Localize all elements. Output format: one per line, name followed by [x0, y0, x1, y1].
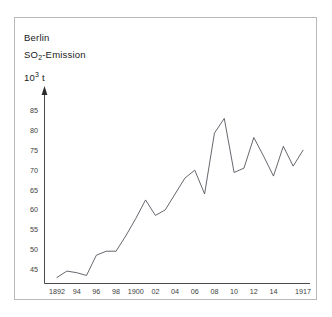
y-tick-label: 75 — [30, 146, 38, 155]
x-tick-label: 12 — [250, 287, 258, 296]
y-axis-arrow-icon — [42, 86, 48, 95]
x-tick-label: 1892 — [49, 287, 65, 296]
x-tick-label: 1917 — [295, 287, 311, 296]
x-tick-label: 02 — [151, 287, 159, 296]
x-tick-label: 14 — [269, 287, 277, 296]
y-tick-label: 85 — [30, 106, 38, 115]
x-tick-label: 96 — [92, 287, 100, 296]
y-tick-label: 55 — [30, 225, 38, 234]
x-tick-label: 94 — [73, 287, 81, 296]
figure-root: Berlin SO2-Emission 103 t 45505560657075… — [0, 0, 332, 317]
line-chart-plot: 455055606570758085 189294969819000204060… — [0, 0, 332, 317]
y-tick-label: 60 — [30, 205, 38, 214]
x-tick-label: 98 — [112, 287, 120, 296]
y-tick-label: 80 — [30, 126, 38, 135]
y-axis-tick-labels: 455055606570758085 — [30, 106, 38, 274]
x-tick-label: 06 — [191, 287, 199, 296]
data-series-line — [57, 118, 303, 277]
x-tick-label: 08 — [210, 287, 218, 296]
x-tick-label: 1900 — [128, 287, 144, 296]
y-tick-label: 50 — [30, 245, 38, 254]
y-tick-label: 65 — [30, 186, 38, 195]
y-tick-label: 70 — [30, 166, 38, 175]
x-axis-tick-labels: 18929496981900020406081012141917 — [49, 287, 311, 296]
x-tick-label: 10 — [230, 287, 238, 296]
y-tick-label: 45 — [30, 265, 38, 274]
x-tick-label: 04 — [171, 287, 179, 296]
y-axis — [42, 86, 48, 284]
